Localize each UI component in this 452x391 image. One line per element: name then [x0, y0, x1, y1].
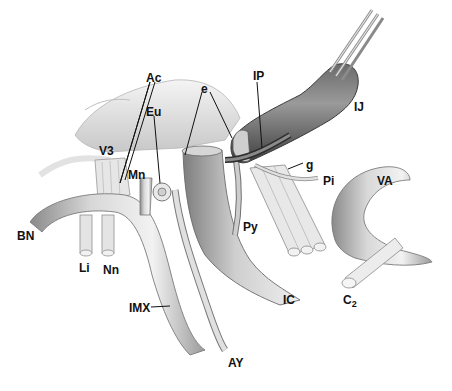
label-pi: Pi [323, 175, 334, 187]
label-mn: Mn [128, 169, 145, 181]
lower-cranial-nerves [250, 165, 326, 256]
label-ay: AY [228, 357, 244, 369]
label-c2-sub: 2 [352, 299, 357, 309]
label-c2-main: C [343, 293, 352, 307]
label-bn: BN [17, 230, 34, 242]
eustachian-tube [153, 183, 171, 201]
label-imx: IMX [129, 302, 150, 314]
anatomical-figure: Ac e IP IJ Eu V3 Mn g Pi VA Py BN Li Nn … [0, 0, 452, 391]
label-ac: Ac [146, 72, 161, 84]
label-ic: IC [283, 294, 295, 306]
label-e: e [201, 83, 208, 95]
lingual-nerve [80, 215, 92, 256]
internal-jugular-vein [231, 10, 383, 163]
nerve-nn [102, 215, 114, 256]
artery-py [235, 160, 239, 235]
label-nn: Nn [103, 264, 119, 276]
label-v3: V3 [99, 145, 114, 157]
label-g: g [306, 159, 313, 171]
label-eu: Eu [146, 106, 161, 118]
middle-meningeal-artery [140, 178, 152, 215]
label-py: Py [243, 221, 258, 233]
label-va: VA [377, 175, 393, 187]
label-ip: IP [253, 70, 264, 82]
label-c2: C2 [343, 294, 357, 309]
label-li: Li [79, 262, 90, 274]
illustration-artwork [0, 0, 452, 391]
label-ij: IJ [354, 101, 364, 113]
